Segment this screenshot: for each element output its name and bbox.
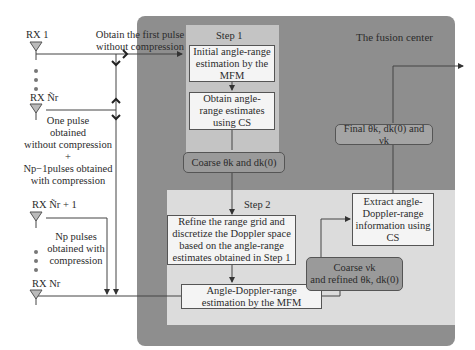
np-pulses-annotation: Np pulses obtained with compression <box>42 231 110 267</box>
angle-doppler-range-mfm-box: Angle-Doppler-range estimation by the MF… <box>181 284 322 309</box>
step1-title: Step 1 <box>216 30 243 42</box>
refine-range-grid-box: Refine the range grid and discretize the… <box>167 215 296 265</box>
initial-angle-range-box: Initial angle-range estimation by the MF… <box>189 45 275 82</box>
rx-1-label: RX 1 <box>26 29 48 41</box>
extract-angle-doppler-range-box: Extract angle-Doppler-range information … <box>352 193 434 246</box>
mixed-pulses-annotation: One pulse obtained without compression +… <box>18 115 118 187</box>
final-estimates-box: Final θk, dk(0) and νk <box>335 124 433 145</box>
coarse-theta-d-box: Coarse θk and dk(0) <box>183 152 285 173</box>
rx-nr-tilde-plus-1-label: RX Ñr + 1 <box>32 199 77 211</box>
rx-nr-tilde-label: RX Ñr <box>30 92 58 104</box>
coarse-nu-refined-box: Coarse νk and refined θk, dk(0) <box>306 257 403 291</box>
step2-title: Step 2 <box>244 199 271 211</box>
rx-nr-label: RX Nr <box>32 278 60 290</box>
first-pulse-annotation: Obtain the first pulse without compressi… <box>80 29 200 53</box>
cs-estimates-box: Obtain angle-range estimates using CS <box>189 92 275 130</box>
